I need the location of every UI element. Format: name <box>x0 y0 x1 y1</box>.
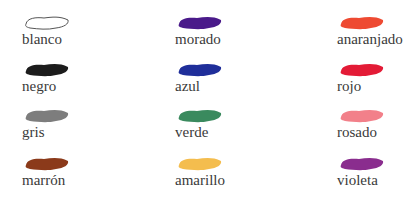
paint-swatch-icon <box>24 15 70 31</box>
color-item-amarillo: amarillo <box>175 156 285 202</box>
color-label: rosado <box>337 124 377 141</box>
color-item-violeta: violeta <box>337 156 418 202</box>
paint-swatch-icon <box>339 156 385 172</box>
color-item-rojo: rojo <box>337 62 418 108</box>
paint-swatch-icon <box>177 108 223 124</box>
paint-swatch-icon <box>24 62 70 78</box>
color-label: morado <box>175 31 221 48</box>
color-label: gris <box>22 124 45 141</box>
paint-swatch-icon <box>177 15 223 31</box>
color-label: marrón <box>22 172 65 189</box>
paint-swatch-icon <box>24 156 70 172</box>
color-item-marrón: marrón <box>22 156 132 202</box>
color-label: violeta <box>337 172 378 189</box>
paint-swatch-icon <box>339 15 385 31</box>
color-item-azul: azul <box>175 62 285 108</box>
color-item-anaranjado: anaranjado <box>337 15 418 61</box>
color-item-morado: morado <box>175 15 285 61</box>
color-label: verde <box>175 124 208 141</box>
paint-swatch-icon <box>177 156 223 172</box>
color-label: anaranjado <box>337 31 403 48</box>
color-item-blanco: blanco <box>22 15 132 61</box>
color-label: rojo <box>337 78 361 95</box>
paint-swatch-icon <box>339 62 385 78</box>
color-item-rosado: rosado <box>337 108 418 154</box>
color-label: azul <box>175 78 200 95</box>
color-item-negro: negro <box>22 62 132 108</box>
paint-swatch-icon <box>339 108 385 124</box>
color-label: blanco <box>22 31 62 48</box>
color-item-gris: gris <box>22 108 132 154</box>
color-label: negro <box>22 78 56 95</box>
color-label: amarillo <box>175 172 225 189</box>
paint-swatch-icon <box>24 108 70 124</box>
color-item-verde: verde <box>175 108 285 154</box>
paint-swatch-icon <box>177 62 223 78</box>
